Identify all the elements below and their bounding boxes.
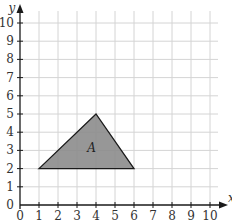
x-tick-label: 5	[111, 209, 119, 222]
x-axis-arrow-icon	[219, 202, 228, 209]
y-tick-label: 6	[6, 89, 14, 103]
tick-labels: 012345678910012345678910xy	[0, 1, 232, 222]
y-tick-label: 10	[0, 16, 14, 30]
x-tick-label: 1	[35, 209, 43, 222]
y-tick-label: 2	[6, 162, 14, 176]
x-tick-label: 0	[16, 209, 24, 222]
y-tick-label: 9	[6, 34, 14, 48]
y-tick-label: 5	[6, 107, 14, 121]
x-tick-label: 10	[202, 209, 217, 222]
y-axis-arrow-icon	[17, 4, 24, 13]
axes	[17, 4, 229, 209]
shapes-layer: A	[39, 114, 134, 169]
grid-lines	[20, 11, 218, 205]
x-tick-label: 4	[92, 209, 100, 222]
y-tick-label: 1	[6, 180, 14, 194]
x-tick-label: 2	[54, 209, 62, 222]
y-axis-label: y	[8, 1, 16, 15]
x-tick-label: 8	[168, 209, 176, 222]
x-tick-label: 3	[73, 209, 81, 222]
x-tick-label: 6	[130, 209, 138, 222]
x-tick-label: 9	[187, 209, 195, 222]
y-tick-label: 0	[6, 198, 14, 212]
coordinate-grid: A 012345678910012345678910xy	[0, 0, 232, 222]
y-tick-label: 7	[6, 71, 14, 85]
y-tick-label: 3	[6, 143, 14, 157]
y-tick-label: 8	[6, 52, 14, 66]
x-tick-label: 7	[149, 209, 157, 222]
y-tick-label: 4	[6, 125, 14, 139]
shape-label: A	[86, 141, 96, 155]
x-axis-label: x	[228, 191, 232, 205]
